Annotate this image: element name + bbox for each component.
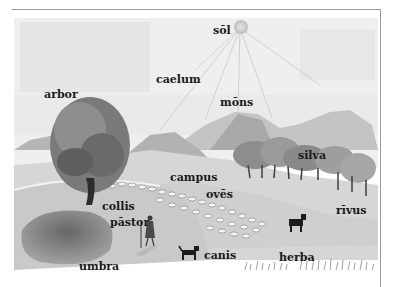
landscape-drawing <box>0 0 394 287</box>
label-pastor: pāstor <box>110 217 149 228</box>
label-collis: collis <box>102 201 135 212</box>
label-canis: canis <box>204 250 236 261</box>
label-umbra: umbra <box>79 261 119 272</box>
label-oves: ovēs <box>206 189 233 200</box>
label-arbor: arbor <box>44 89 78 100</box>
label-caelum: caelum <box>156 74 201 85</box>
label-herba: herba <box>279 252 315 263</box>
label-campus: campus <box>170 172 217 183</box>
label-silva: silva <box>298 150 326 161</box>
top-rule <box>12 9 380 10</box>
label-rivus: rīvus <box>336 205 367 216</box>
right-rule <box>380 9 381 287</box>
label-mons: mōns <box>220 97 253 108</box>
umbra-shadow <box>21 210 112 264</box>
label-sol: sōl <box>213 25 231 36</box>
latin-vocabulary-illustration: sōl caelum arbor mōns silva campus ovēs … <box>0 0 394 287</box>
